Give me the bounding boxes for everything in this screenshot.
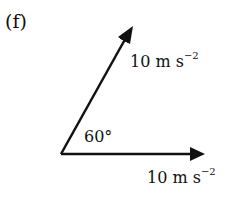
vector-diagram: (f) 10 m s−2 60° 10 m s−2	[0, 0, 230, 207]
horizontal-vector-label: 10 m s−2	[147, 168, 216, 187]
unit: m s	[155, 52, 183, 71]
horizontal-arrowhead-icon	[190, 147, 205, 161]
angle-label: 60°	[84, 127, 112, 146]
magnitude: 10	[147, 168, 167, 187]
exponent: −2	[201, 166, 216, 177]
magnitude: 10	[130, 52, 150, 71]
inclined-arrowhead-icon	[118, 26, 133, 44]
exponent: −2	[184, 50, 199, 61]
inclined-vector-label: 10 m s−2	[130, 52, 199, 71]
part-label: (f)	[5, 10, 27, 32]
unit: m s	[172, 168, 200, 187]
